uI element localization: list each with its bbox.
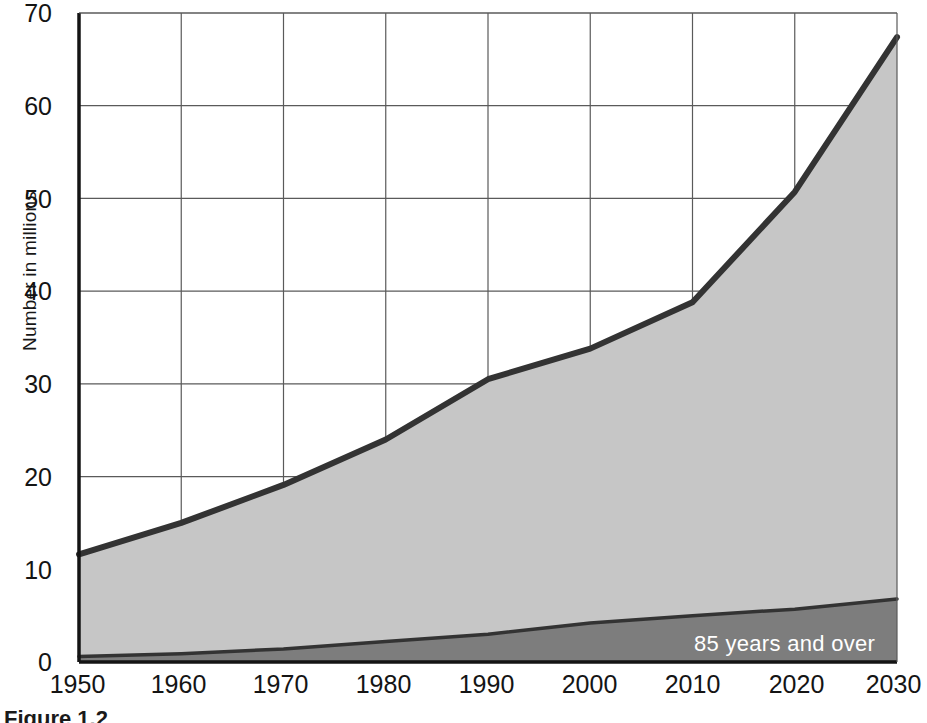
figure-caption: Figure 1.2 xyxy=(4,706,108,723)
series-label-85-and-over: 85 years and over xyxy=(694,631,875,657)
figure-root: Number in millions 70 60 50 40 30 20 10 … xyxy=(0,0,927,723)
area-chart-plot xyxy=(0,0,927,723)
